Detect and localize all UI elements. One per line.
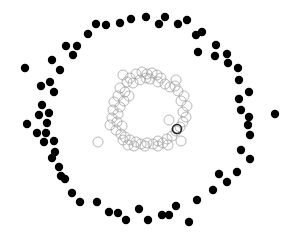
- outer-ring-point: [271, 110, 279, 118]
- outer-ring-point: [183, 16, 191, 24]
- inner-ring-point: [171, 75, 181, 85]
- outer-ring-point: [172, 202, 180, 210]
- outer-ring-point: [33, 129, 41, 137]
- outer-ring-point: [244, 121, 252, 129]
- outer-ring-point: [246, 131, 254, 139]
- outer-ring-point: [245, 113, 253, 121]
- outer-ring-point: [105, 208, 113, 216]
- outer-ring-point: [237, 106, 245, 114]
- outer-ring-point: [35, 111, 43, 119]
- outer-ring-point: [114, 209, 122, 217]
- outer-ring-point: [23, 120, 31, 128]
- outer-ring-point: [73, 42, 81, 50]
- outer-ring-point: [235, 95, 243, 103]
- outer-ring-point: [215, 170, 223, 178]
- outer-ring-point: [223, 178, 231, 186]
- outer-ring-point: [245, 88, 253, 96]
- outer-ring-point: [122, 216, 130, 224]
- outer-ring-point: [127, 15, 135, 23]
- inner-ring-point: [105, 120, 115, 130]
- outer-ring-point: [37, 82, 45, 90]
- outer-ring-point: [55, 163, 63, 171]
- outer-ring-point: [48, 56, 56, 64]
- outer-ring-point: [135, 205, 143, 213]
- outer-ring-point: [209, 186, 217, 194]
- inner-ring-point: [164, 115, 174, 125]
- scatter-plot: [0, 0, 289, 240]
- outer-ring-point: [165, 211, 173, 219]
- outer-ring-point: [93, 198, 101, 206]
- outer-ring-point: [21, 64, 29, 72]
- outer-ring-point: [224, 59, 232, 67]
- outer-ring-point: [155, 20, 163, 28]
- outer-ring-point: [174, 20, 182, 28]
- outer-ring-point: [76, 198, 84, 206]
- outer-ring-point: [48, 154, 56, 162]
- outer-ring-series: [21, 13, 279, 226]
- outer-ring-point: [102, 21, 110, 29]
- outer-ring-point: [193, 196, 201, 204]
- outer-ring-point: [116, 19, 124, 27]
- outer-ring-point: [161, 13, 169, 21]
- outer-ring-point: [198, 28, 206, 36]
- inner-ring-point: [93, 137, 103, 147]
- outer-ring-point: [84, 30, 92, 38]
- outer-ring-point: [50, 137, 58, 145]
- outer-ring-point: [50, 88, 58, 96]
- outer-ring-point: [212, 41, 220, 49]
- outer-ring-point: [92, 20, 100, 28]
- outer-ring-point: [43, 119, 51, 127]
- outer-ring-point: [45, 109, 53, 117]
- inner-ring-point: [176, 136, 186, 146]
- outer-ring-point: [233, 168, 241, 176]
- outer-ring-point: [68, 189, 76, 197]
- outer-ring-point: [40, 138, 48, 146]
- outer-ring-point: [62, 42, 70, 50]
- outer-ring-point: [69, 51, 77, 59]
- outer-ring-point: [211, 52, 219, 60]
- outer-ring-point: [235, 76, 243, 84]
- outer-ring-point: [246, 155, 254, 163]
- inner-ring-series: [93, 67, 192, 151]
- outer-ring-point: [142, 13, 150, 21]
- outer-ring-point: [223, 50, 231, 58]
- outer-ring-point: [144, 216, 152, 224]
- outer-ring-point: [38, 101, 46, 109]
- outer-ring-point: [185, 218, 193, 226]
- outer-ring-point: [194, 48, 202, 56]
- outer-ring-point: [61, 175, 69, 183]
- outer-ring-point: [237, 146, 245, 154]
- outer-ring-point: [46, 78, 54, 86]
- outer-ring-point: [42, 129, 50, 137]
- outer-ring-point: [56, 66, 64, 74]
- outer-ring-point: [234, 64, 242, 72]
